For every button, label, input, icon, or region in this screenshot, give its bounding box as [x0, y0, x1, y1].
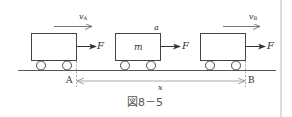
mass-label: m — [134, 43, 143, 52]
force-label-1: F — [97, 41, 104, 51]
cart-at-B — [201, 27, 266, 71]
cart-at-A — [32, 27, 97, 71]
velocity-label-B: vB — [249, 13, 257, 21]
acceleration-label: a — [154, 24, 159, 32]
physics-figure: vA F a m F vB F A B x 図8－5 — [0, 0, 292, 117]
distance-label: x — [158, 84, 163, 92]
force-label-2: F — [182, 41, 189, 51]
point-A-label: A — [66, 76, 73, 85]
figure-caption: 図8－5 — [127, 97, 163, 108]
point-B-label: B — [248, 76, 255, 85]
velocity-label-A: vA — [79, 13, 87, 21]
force-label-3: F — [267, 41, 274, 51]
cart-middle — [116, 34, 181, 71]
